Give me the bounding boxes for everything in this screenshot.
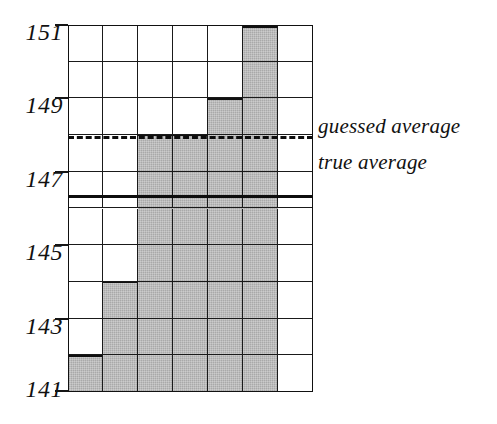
grid-cell: [103, 62, 138, 99]
grid-cell: [103, 25, 138, 62]
grid-cell: [208, 62, 243, 99]
grid-cell: [173, 135, 208, 172]
y-tick-rule-149: [55, 97, 68, 99]
grid-cell: [138, 98, 173, 135]
grid-cell: [173, 172, 208, 209]
grid-cell: [278, 98, 313, 135]
guessed-average-line: [68, 136, 313, 139]
y-tick-rule-141: [55, 390, 68, 392]
grid-cell: [68, 98, 103, 135]
grid-cell: [173, 319, 208, 356]
grid-cell: [103, 172, 138, 209]
guessed-average-label: guessed average: [318, 114, 460, 139]
grid-cell: [173, 245, 208, 282]
grid-cell: [243, 135, 278, 172]
y-tick-rule-143: [55, 318, 68, 320]
grid-cell: [68, 62, 103, 99]
grid-cell: [68, 355, 103, 392]
grid-cell: [278, 209, 313, 246]
y-tick-rule-151: [55, 24, 68, 26]
true-average-line: [68, 195, 313, 198]
grid-cell: [208, 245, 243, 282]
grid-cell: [208, 319, 243, 356]
y-tick-rule-145: [55, 244, 68, 246]
grid-cell: [278, 135, 313, 172]
grid-cell: [103, 98, 138, 135]
grid-cell: [173, 282, 208, 319]
grid-cell: [278, 62, 313, 99]
grid-cell: [173, 355, 208, 392]
grid-cell: [103, 245, 138, 282]
grid-cell: [68, 172, 103, 209]
grid-cell: [208, 282, 243, 319]
grid-cell: [208, 135, 243, 172]
plot-area: [68, 25, 313, 392]
grid-cell: [138, 25, 173, 62]
y-axis: 151 149 147 145 143 141: [0, 0, 63, 424]
grid-cell: [138, 282, 173, 319]
grid-cell: [68, 282, 103, 319]
y-tick-rule-147: [55, 171, 68, 173]
grid-cell: [103, 135, 138, 172]
grid-cell: [208, 172, 243, 209]
histogram-figure: 151 149 147 145 143 141: [0, 0, 497, 424]
grid-cell: [138, 172, 173, 209]
grid-cell: [243, 245, 278, 282]
grid-cell: [243, 209, 278, 246]
grid-cell: [243, 282, 278, 319]
grid-cell: [138, 62, 173, 99]
true-average-label: true average: [318, 150, 427, 175]
grid-cell: [208, 25, 243, 62]
grid-cell: [173, 25, 208, 62]
grid-cell: [68, 209, 103, 246]
grid-cell: [278, 319, 313, 356]
grid-cell: [208, 209, 243, 246]
grid-cell: [68, 245, 103, 282]
grid-cell: [138, 355, 173, 392]
grid-cell: [173, 62, 208, 99]
grid-cell: [243, 355, 278, 392]
grid-cell: [138, 245, 173, 282]
grid-cell: [103, 282, 138, 319]
grid-cell: [138, 319, 173, 356]
grid-cell: [278, 25, 313, 62]
grid-cell: [103, 319, 138, 356]
grid-cell: [243, 319, 278, 356]
grid-cell: [208, 355, 243, 392]
grid-cell: [278, 172, 313, 209]
grid-cell: [68, 319, 103, 356]
grid-cell: [173, 209, 208, 246]
grid-cell: [138, 135, 173, 172]
grid-cell: [243, 25, 278, 62]
grid-cell: [68, 135, 103, 172]
grid-cell: [208, 98, 243, 135]
grid-cell: [243, 172, 278, 209]
grid-cell: [138, 209, 173, 246]
grid-cell: [278, 282, 313, 319]
grid-cell: [278, 355, 313, 392]
grid-cell: [173, 98, 208, 135]
grid-cell: [103, 209, 138, 246]
grid-cell: [278, 245, 313, 282]
grid-cell: [243, 62, 278, 99]
grid-cell: [103, 355, 138, 392]
grid-cell: [243, 98, 278, 135]
grid-cell: [68, 25, 103, 62]
